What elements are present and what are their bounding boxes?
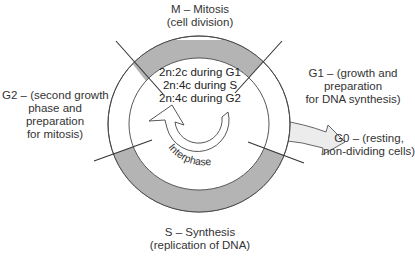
m-phase-label: M – Mitosis (cell division) xyxy=(150,3,250,29)
cell-cycle-diagram: Interphase 2n:2c during G1 2n:4c during … xyxy=(0,0,415,258)
g2-phase-label: G2 – (second growth phase and preparatio… xyxy=(2,89,108,141)
s-phase-title: S – Synthesis xyxy=(140,226,260,239)
g0-phase-label: G0 – (resting, non-dividing cells) xyxy=(322,132,415,158)
m-phase-title: M – Mitosis xyxy=(150,3,250,16)
g2-phase-desc-1: phase and xyxy=(2,102,108,115)
g1-phase-desc-1: preparation xyxy=(293,80,413,93)
g2-phase-desc-3: for mitosis) xyxy=(2,128,108,141)
m-phase-desc: (cell division) xyxy=(150,16,250,29)
ploidy-g1: 2n:2c during G1 xyxy=(150,66,250,79)
g2-phase-desc-2: preparation xyxy=(2,115,108,128)
ploidy-g2: 2n:4c during G2 xyxy=(150,92,250,105)
s-phase-label: S – Synthesis (replication of DNA) xyxy=(140,226,260,252)
g0-phase-desc: non-dividing cells) xyxy=(322,145,415,158)
g1-phase-title: G1 – (growth and xyxy=(293,67,413,80)
g2-phase-title: G2 – (second growth xyxy=(2,89,108,102)
g1-phase-label: G1 – (growth and preparation for DNA syn… xyxy=(293,67,413,106)
ploidy-s: 2n:4c during S xyxy=(150,79,250,92)
g1-phase-desc-2: for DNA synthesis) xyxy=(293,93,413,106)
s-phase-desc: (replication of DNA) xyxy=(140,239,260,252)
g0-phase-title: G0 – (resting, xyxy=(322,132,415,145)
